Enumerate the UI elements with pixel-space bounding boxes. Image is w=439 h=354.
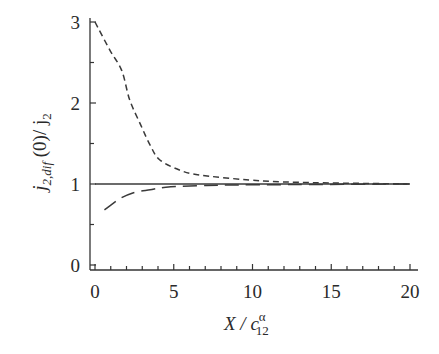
y-tick-label: 2 [71,93,81,114]
y-tick-label: 0 [71,255,81,276]
x-axis-label: X / cα12 [223,309,269,338]
y-tick-label: 3 [71,12,81,33]
x-tick-label: 0 [90,281,100,302]
plot-series [95,22,410,210]
y-axis-label: j2,dif (0)/ j2 [29,113,54,193]
axes [90,18,418,270]
x-tick-label: 10 [243,281,262,302]
x-tick-label: 5 [169,281,179,302]
x-tick-label: 20 [401,281,420,302]
series-short-dash-line [95,22,410,184]
chart: 0123 05101520 j2,dif (0)/ j2 X / cα12 [0,0,439,354]
x-tick-label: 15 [322,281,341,302]
y-ticks: 0123 [71,12,97,276]
y-tick-label: 1 [71,174,81,195]
series-long-dash-line [104,184,410,210]
